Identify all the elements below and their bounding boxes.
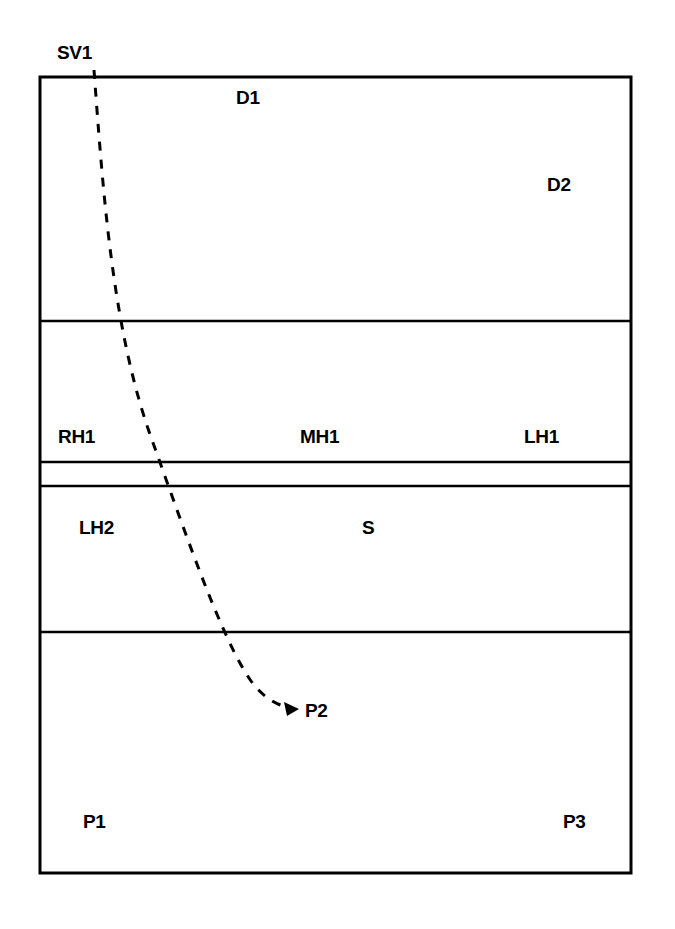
label-rh1: RH1 (58, 427, 95, 446)
label-sv1: SV1 (57, 43, 92, 62)
label-d1: D1 (236, 88, 260, 107)
label-p2: P2 (305, 701, 328, 720)
label-p1: P1 (83, 812, 106, 831)
court-boundary (40, 77, 631, 873)
label-s: S (362, 518, 374, 537)
volleyball-court-diagram: SV1 D1 D2 RH1 MH1 LH1 LH2 S P2 P1 P3 (0, 0, 675, 929)
label-lh2: LH2 (79, 518, 114, 537)
label-d2: D2 (547, 175, 571, 194)
serve-arrowhead (284, 702, 299, 716)
label-lh1: LH1 (524, 427, 559, 446)
label-p3: P3 (563, 812, 586, 831)
court-graphics (0, 0, 675, 929)
label-mh1: MH1 (300, 427, 339, 446)
serve-trajectory-path (94, 70, 291, 708)
